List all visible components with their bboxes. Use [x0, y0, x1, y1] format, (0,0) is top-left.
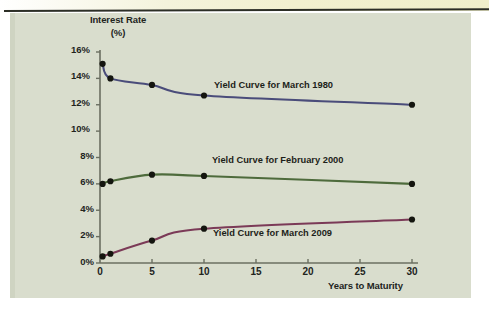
data-point-marker: [107, 251, 113, 257]
data-point-marker: [201, 92, 207, 98]
data-point-marker: [149, 172, 155, 178]
plot-area: [0, 0, 489, 314]
series-1: [100, 172, 416, 187]
data-point-marker: [100, 61, 106, 67]
series-line: [103, 219, 412, 256]
data-point-marker: [409, 181, 415, 187]
data-point-marker: [107, 178, 113, 184]
data-point-marker: [409, 216, 415, 222]
data-point-marker: [149, 237, 155, 243]
series-line: [103, 174, 412, 184]
series-0: [100, 61, 416, 108]
data-point-marker: [100, 253, 106, 259]
axis-lines: [100, 50, 418, 263]
figure-page: Interest Rate (%) Years to Maturity 0% 2…: [0, 0, 489, 314]
series-lines: [100, 61, 416, 260]
data-point-marker: [201, 226, 207, 232]
data-point-marker: [409, 102, 415, 108]
data-point-marker: [107, 75, 113, 81]
series-2: [100, 216, 416, 259]
data-point-marker: [149, 82, 155, 88]
data-point-marker: [100, 181, 106, 187]
data-point-marker: [201, 173, 207, 179]
